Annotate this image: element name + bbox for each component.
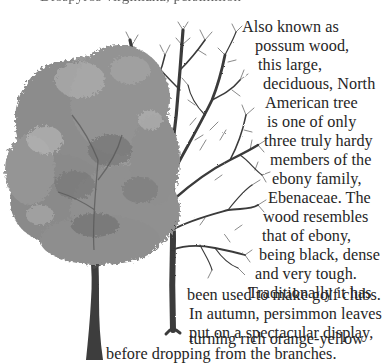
text-line: is one of only	[267, 113, 356, 132]
text-line: three truly hardy	[264, 132, 373, 151]
text-line: ebony family,	[272, 170, 362, 189]
text-line: deciduous, North	[263, 75, 375, 94]
text-line: being black, dense	[259, 246, 380, 265]
text-line: members of the	[270, 151, 371, 170]
text-line: In autumn, persimmon leaves	[189, 305, 382, 324]
text-line: Ebenaceae. The	[268, 189, 371, 208]
text-line: possum wood,	[255, 37, 349, 56]
text-line: this large,	[258, 56, 322, 75]
text-line: American tree	[265, 94, 358, 113]
text-line: been used to make golf clubs.	[187, 286, 381, 305]
text-line: Also known as	[242, 18, 339, 37]
text-line: and very tough.	[255, 265, 357, 284]
text-line: that of ebony,	[262, 227, 351, 246]
text-line: wood resembles	[263, 208, 368, 227]
text-line: before dropping from the branches.	[106, 345, 337, 363]
